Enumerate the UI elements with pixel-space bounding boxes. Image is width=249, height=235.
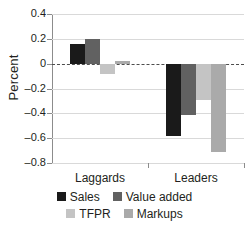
y-axis-tick-mark [47,163,52,164]
legend-label: Value added [126,190,193,204]
gridline [52,14,244,15]
x-axis-tick-mark [148,163,149,168]
y-axis-tick-label: 0 [12,58,46,69]
y-axis-tick-label: 0.2 [12,33,46,44]
legend-entry: Value added [113,190,193,204]
chart-legend: SalesValue addedTFPRMarkups [0,188,249,222]
bar [85,39,100,64]
bar [100,64,115,74]
legend-swatch-icon [66,209,75,218]
legend-row: TFPRMarkups [0,205,249,222]
bar [196,64,211,100]
x-axis-category-label: Leaders [146,171,246,185]
bar [115,61,130,63]
y-axis-tick-mark [47,113,52,114]
x-axis-category-label: Laggards [50,171,150,185]
legend-entry: TFPR [66,207,110,221]
legend-swatch-icon [124,209,133,218]
legend-label: Markups [137,207,183,221]
y-axis-tick-label: –0.4 [12,107,46,118]
bar-chart: Percent 0.40.20–0.2–0.4–0.6–0.8 Laggards… [0,0,249,235]
legend-swatch-icon [57,192,66,201]
legend-swatch-icon [113,192,122,201]
y-axis-tick-mark [47,64,52,65]
y-axis-tick-label: –0.6 [12,132,46,143]
gridline [52,39,244,40]
y-axis-tick-mark [47,14,52,15]
x-axis-tick-mark [244,163,245,168]
legend-entry: Markups [124,207,183,221]
bar [211,64,226,152]
y-axis-tick-label: –0.2 [12,83,46,94]
plot-area [52,14,244,163]
y-axis-tick-label: –0.8 [12,157,46,168]
legend-label: Sales [70,190,100,204]
legend-label: TFPR [79,207,110,221]
legend-entry: Sales [57,190,100,204]
y-axis-tick-label: 0.4 [12,8,46,19]
y-axis-tick-mark [47,138,52,139]
legend-row: SalesValue added [0,188,249,205]
y-axis-tick-mark [47,39,52,40]
y-axis-tick-mark [47,89,52,90]
bar [70,44,85,64]
bar [166,64,181,136]
bar [181,64,196,115]
